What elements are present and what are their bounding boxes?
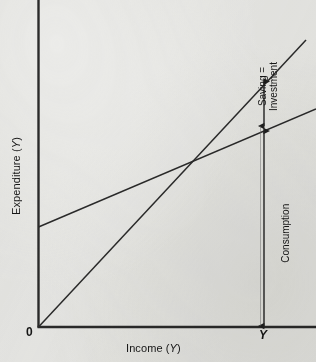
x-axis-tick-label-y: Y	[259, 328, 267, 342]
x-axis-title-symbol: Y	[170, 342, 177, 354]
x-axis-title-close: )	[177, 342, 181, 354]
x-axis-title: Income (Y)	[126, 342, 181, 354]
origin-label: 0	[26, 325, 33, 339]
y-axis-title: Expenditure (Y)	[10, 116, 22, 236]
consumption-label: Consumption	[281, 173, 292, 293]
saving-investment-label-line1: Saving =	[258, 51, 269, 123]
economics-chart-figure: Expenditure (Y) Income (Y) 0 Y Saving = …	[0, 0, 316, 362]
x-axis-title-text: Income (	[126, 342, 170, 354]
saving-investment-label-line2: Investment	[268, 51, 279, 123]
y-axis-title-symbol: Y	[10, 141, 22, 148]
saving-investment-label: Saving = Investment	[258, 51, 279, 123]
y-axis-title-text: Expenditure (	[10, 148, 22, 215]
consumption-function-line	[39, 109, 317, 227]
y-axis-title-close: )	[10, 137, 22, 141]
